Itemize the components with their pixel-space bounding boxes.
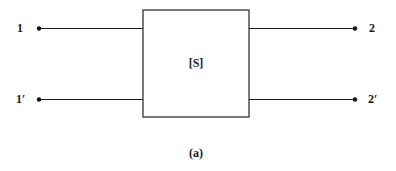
- port-2prime-label: 2′: [368, 92, 377, 106]
- port-1-terminal: [37, 26, 41, 30]
- figure-caption: (a): [189, 146, 203, 160]
- s-matrix-label: [S]: [189, 56, 204, 70]
- port-2prime-terminal: [353, 97, 357, 101]
- port-1prime-label: 1′: [16, 92, 25, 106]
- port-2-terminal: [353, 26, 357, 30]
- port-2-label: 2: [369, 21, 375, 35]
- two-port-network-diagram: [S] 1 1′ 2 2′ (a): [0, 0, 396, 171]
- port-1prime-terminal: [37, 97, 41, 101]
- port-1-label: 1: [17, 21, 23, 35]
